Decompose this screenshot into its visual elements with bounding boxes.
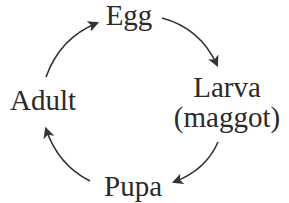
stage-larva-label: Larva xyxy=(170,72,284,102)
stage-pupa: Pupa xyxy=(98,172,168,201)
stage-egg-label: Egg xyxy=(106,0,153,31)
arrow-larva-to-pupa xyxy=(174,142,218,182)
arrow-adult-to-egg xyxy=(46,23,97,77)
stage-egg: Egg xyxy=(101,1,157,30)
stage-adult: Adult xyxy=(4,86,82,115)
arrow-egg-to-larva xyxy=(162,18,217,65)
stage-larva-sublabel: (maggot) xyxy=(170,102,284,132)
stage-larva: Larva (maggot) xyxy=(170,72,284,132)
stage-adult-label: Adult xyxy=(10,84,76,116)
stage-pupa-label: Pupa xyxy=(104,170,162,202)
arrow-pupa-to-adult xyxy=(46,129,90,181)
life-cycle-diagram: Egg Larva (maggot) Pupa Adult xyxy=(0,0,289,203)
